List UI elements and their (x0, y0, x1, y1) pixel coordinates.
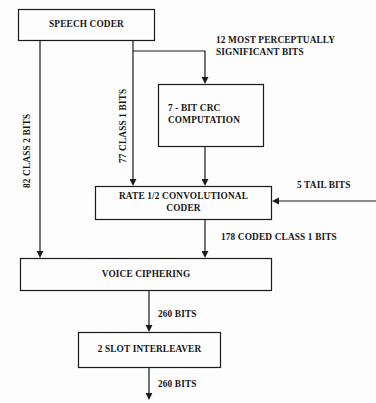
block-voice-ciphering-label: VOICE CIPHERING (20, 269, 272, 281)
edge-label-msb: 12 MOST PERCEPTUALLY SIGNIFICANT BITS (216, 35, 335, 58)
edge-label-class2: 82 CLASS 2 BITS (22, 114, 34, 188)
block-conv-coder-label: RATE 1/2 CONVOLUTIONAL CODER (95, 191, 272, 214)
block-speech-coder-label: SPEECH CODER (18, 19, 155, 31)
connector-msb (133, 51, 205, 78)
edge-label-coded-class1: 178 CODED CLASS 1 BITS (221, 232, 337, 244)
edge-label-bits260-in: 260 BITS (158, 309, 197, 321)
edge-label-tail-bits: 5 TAIL BITS (297, 180, 351, 192)
block-interleaver-label: 2 SLOT INTERLEAVER (78, 344, 221, 356)
edge-label-bits260-out: 260 BITS (158, 379, 197, 391)
block-crc-label: 7 - BIT CRC COMPUTATION (168, 103, 258, 126)
block-diagram: SPEECH CODER 7 - BIT CRC COMPUTATION RAT… (0, 0, 376, 403)
edge-label-class1: 77 CLASS 1 BITS (118, 89, 130, 163)
